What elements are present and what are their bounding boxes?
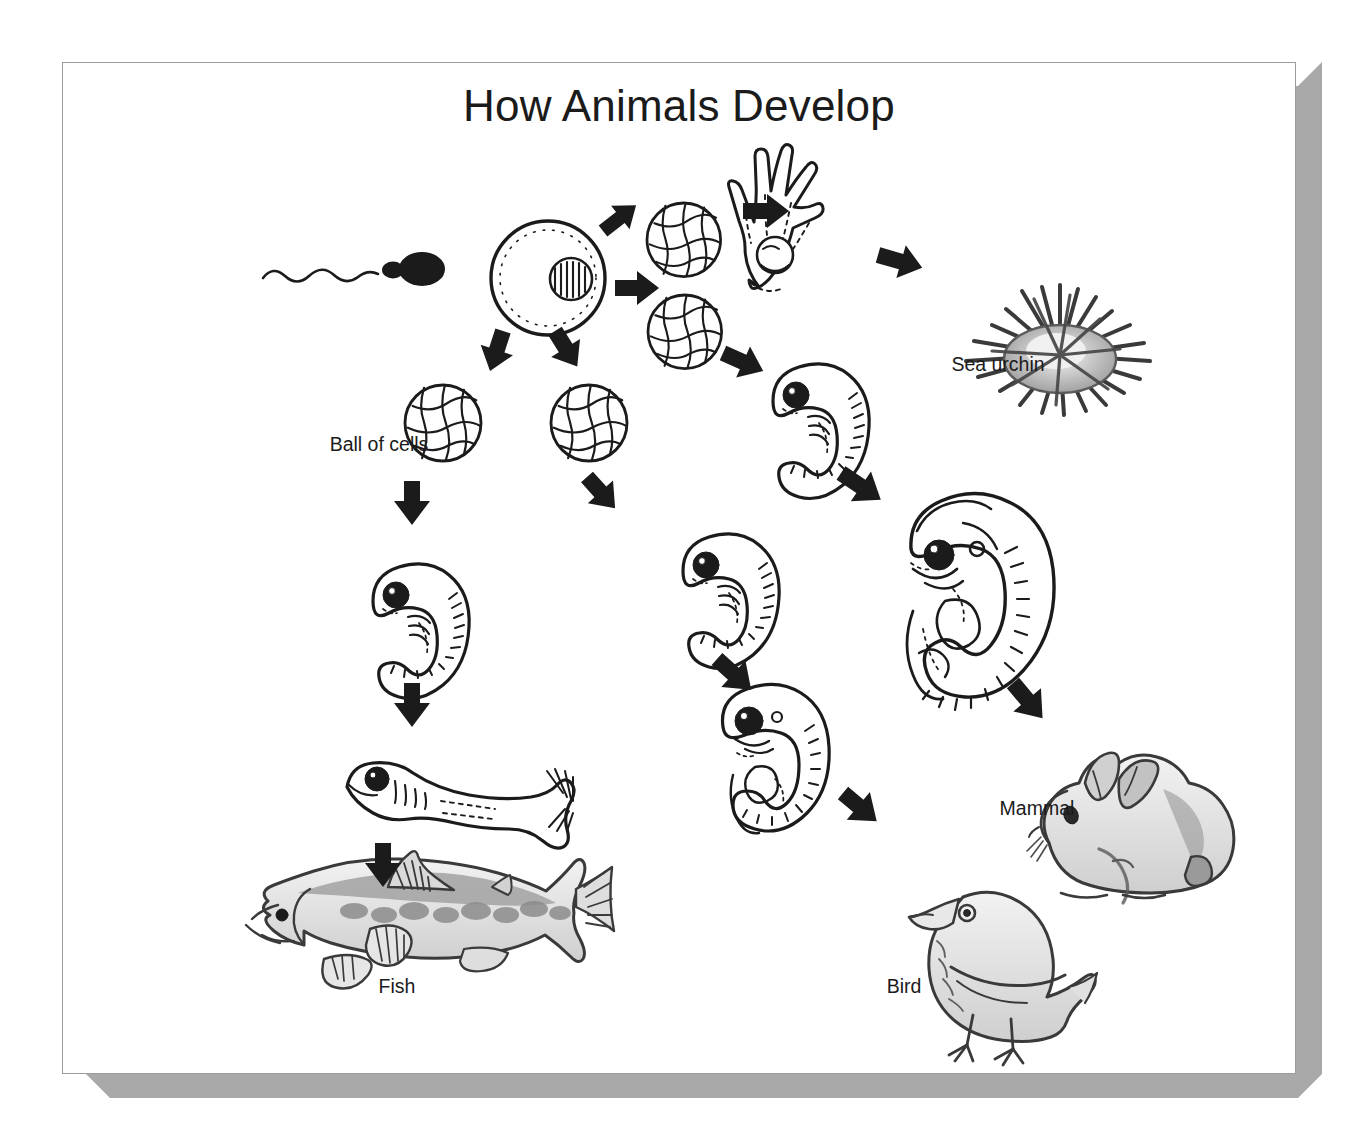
label-bird: Bird <box>887 975 922 998</box>
fish-larva-illustration <box>347 763 574 848</box>
bird-embryo-late-illustration <box>723 684 830 833</box>
fish-embryo-illustration <box>373 564 469 699</box>
blastula-bird <box>551 385 627 461</box>
adult-sea-urchin-illustration <box>966 285 1150 415</box>
bird-embryo-early-illustration <box>683 534 779 669</box>
figure-root: How Animals Develop <box>0 0 1370 1131</box>
label-mammal: Mammal <box>1000 797 1075 820</box>
label-ball-of-cells: Ball of cells <box>330 433 429 456</box>
development-illustration <box>63 63 1295 1073</box>
panel-drop-shadow-corner <box>1296 62 1322 88</box>
adult-fish-illustration <box>246 851 614 988</box>
label-sea-urchin: Sea urchin <box>951 353 1044 376</box>
mammal-embryo-late-illustration <box>907 493 1054 710</box>
adult-bird-illustration <box>909 892 1097 1065</box>
sperm-illustration <box>263 253 444 285</box>
fertilized-egg-illustration <box>491 221 605 335</box>
adult-mammal-illustration <box>1027 753 1234 903</box>
diagram-panel: How Animals Develop <box>62 62 1296 1074</box>
blastula-mammal <box>648 295 722 369</box>
label-fish: Fish <box>379 975 416 998</box>
blastula-sea-urchin <box>647 203 721 277</box>
